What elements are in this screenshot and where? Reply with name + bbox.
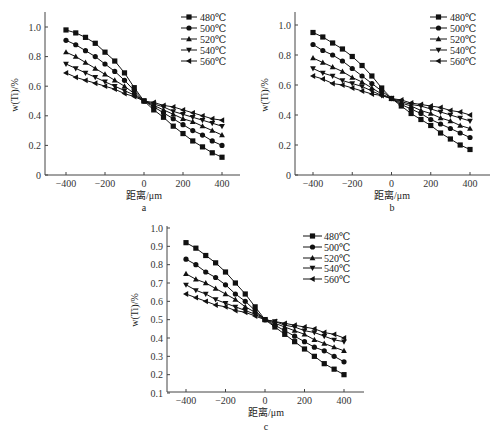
legend-label: 560℃ (200, 56, 226, 67)
series-560c (183, 291, 346, 341)
square-marker-icon (102, 50, 107, 55)
triangle-left-marker-icon (330, 81, 335, 87)
series-line (186, 274, 344, 351)
y-tick-label: 0.8 (151, 259, 164, 270)
triangle-left-legend-icon (310, 276, 315, 282)
legend-label: 560℃ (450, 56, 476, 67)
panel-label: b (390, 202, 395, 213)
x-axis-title: 距离/μm (374, 189, 410, 201)
y-tick-label: 0.2 (29, 140, 42, 151)
triangle-left-marker-icon (447, 108, 452, 114)
circle-marker-icon (340, 58, 345, 63)
square-marker-icon (219, 155, 224, 160)
triangle-left-marker-icon (457, 109, 462, 115)
legend-label: 480℃ (450, 12, 476, 23)
legend-label: 480℃ (200, 12, 226, 23)
x-axis-title: 距离/μm (126, 189, 162, 201)
y-tick-label: 0.6 (279, 80, 292, 91)
series-line (186, 285, 344, 342)
circle-marker-icon (180, 122, 185, 127)
triangle-left-marker-icon (310, 73, 315, 79)
circle-marker-icon (190, 128, 195, 133)
circle-marker-icon (210, 138, 215, 143)
legend-item: 480℃ (430, 12, 476, 23)
triangle-left-marker-icon (92, 80, 97, 86)
triangle-up-marker-icon (310, 55, 316, 60)
panel-label: a (142, 202, 147, 213)
y-axis-title: w(Ti)/% (259, 78, 271, 112)
circle-marker-icon (122, 78, 127, 83)
triangle-up-marker-icon (213, 286, 219, 291)
y-tick-label: 0.2 (279, 140, 292, 151)
triangle-up-marker-icon (311, 337, 317, 342)
legend-item: 480℃ (303, 231, 350, 242)
y-tick-label: 1.0 (279, 20, 292, 31)
series-540c (63, 62, 225, 129)
series-line (66, 52, 222, 135)
series-line (66, 30, 222, 157)
triangle-left-legend-icon (186, 58, 191, 64)
triangle-left-marker-icon (170, 104, 175, 110)
series-line (313, 69, 470, 122)
circle-marker-icon (223, 282, 228, 287)
y-tick-label: 0.4 (279, 110, 292, 121)
circle-marker-icon (83, 48, 88, 53)
x-axis-title: 距离/μm (248, 406, 284, 418)
legend-label: 480℃ (324, 231, 350, 242)
square-marker-icon (332, 367, 337, 372)
square-marker-icon (340, 46, 345, 51)
square-marker-icon (200, 144, 205, 149)
square-marker-icon (369, 73, 374, 78)
triangle-left-legend-icon (436, 58, 441, 64)
square-marker-icon (467, 147, 472, 152)
triangle-up-marker-icon (122, 83, 128, 88)
square-marker-icon (233, 280, 238, 285)
circle-marker-icon (312, 345, 317, 350)
series-480c (183, 240, 346, 377)
legend-item: 500℃ (303, 242, 350, 253)
series-line (313, 58, 470, 129)
panel-label: c (264, 421, 269, 432)
legend-item: 560℃ (303, 274, 350, 285)
series-line (186, 259, 344, 362)
triangle-left-marker-icon (73, 74, 78, 80)
triangle-left-marker-icon (180, 107, 185, 113)
legend-item: 560℃ (430, 56, 476, 67)
triangle-up-marker-icon (193, 276, 199, 281)
square-marker-icon (292, 339, 297, 344)
circle-marker-icon (467, 135, 472, 140)
circle-marker-icon (219, 143, 224, 148)
x-tick-label: 200 (176, 178, 191, 189)
triangle-up-marker-icon (92, 65, 98, 70)
triangle-up-marker-icon (83, 60, 89, 65)
y-tick-label: 0.2 (151, 369, 164, 380)
circle-marker-icon (428, 117, 433, 122)
triangle-left-marker-icon (331, 331, 336, 337)
legend-label: 560℃ (324, 274, 350, 285)
square-marker-icon (341, 372, 346, 377)
series-540c (183, 283, 347, 345)
triangle-up-marker-icon (242, 304, 248, 309)
square-marker-icon (409, 111, 414, 116)
triangle-up-marker-icon (63, 49, 69, 54)
y-axis-title: w(Ti)/% (129, 293, 141, 327)
x-tick-label: −400 (303, 178, 324, 189)
circle-marker-icon (341, 359, 346, 364)
y-tick-label: 0.6 (29, 81, 42, 92)
legend-label: 540℃ (200, 45, 226, 56)
square-marker-icon (302, 346, 307, 351)
circle-marker-icon (203, 269, 208, 274)
circle-marker-icon (458, 130, 463, 135)
y-tick-label: 0.5 (151, 314, 164, 325)
triangle-left-marker-icon (219, 117, 224, 123)
legend-item: 480℃ (181, 12, 226, 23)
triangle-left-marker-icon (359, 88, 364, 94)
x-tick-label: −400 (176, 395, 197, 406)
circle-marker-icon (330, 52, 335, 57)
circle-marker-icon (438, 121, 443, 126)
square-marker-icon (223, 269, 228, 274)
legend-label: 500℃ (450, 23, 476, 34)
y-tick-label: 0.7 (151, 278, 164, 289)
x-tick-label: 0 (142, 178, 147, 189)
square-marker-icon (359, 63, 364, 68)
